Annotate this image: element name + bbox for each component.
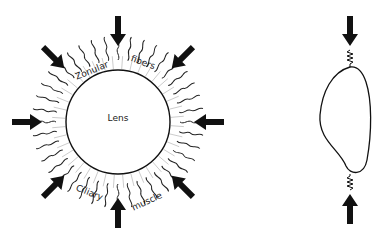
lens-label: Lens — [108, 113, 129, 123]
front-view: Lens Zonular fibers Ciliary muscle — [12, 16, 224, 228]
arrow-down-icon — [342, 16, 358, 46]
spring-bottom — [347, 174, 353, 190]
lens-accommodation-diagram: Lens Zonular fibers Ciliary muscle — [0, 0, 388, 230]
lens-side-outline — [320, 67, 371, 173]
muscle-label: muscle — [130, 190, 164, 213]
spring-top — [347, 50, 353, 67]
fibers-label: fibers — [130, 53, 157, 71]
side-view — [320, 16, 371, 224]
ciliary-label: Ciliary — [74, 183, 105, 203]
arrow-up-icon — [342, 194, 358, 224]
